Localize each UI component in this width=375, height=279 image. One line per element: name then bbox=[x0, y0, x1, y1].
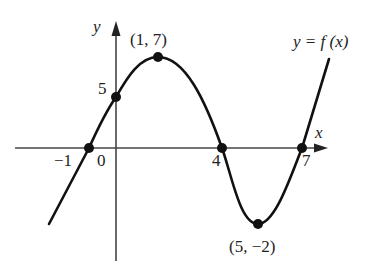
point-5-neg2 bbox=[253, 219, 263, 229]
tick-label-neg1: −1 bbox=[54, 152, 72, 169]
min-point-label: (5, −2) bbox=[229, 238, 275, 255]
point-1-7 bbox=[153, 52, 163, 62]
tick-label-7: 7 bbox=[302, 152, 311, 169]
x-axis-label: x bbox=[315, 124, 323, 141]
tick-label-y5: 5 bbox=[98, 80, 107, 97]
tick-label-4: 4 bbox=[212, 152, 221, 169]
curve-label: y = f (x) bbox=[293, 33, 348, 50]
y-axis-arrow-icon bbox=[112, 21, 121, 36]
max-point-label: (1, 7) bbox=[130, 31, 167, 48]
point-0-5 bbox=[111, 92, 121, 102]
point-neg1-0 bbox=[84, 143, 94, 153]
tick-label-0: 0 bbox=[97, 152, 106, 169]
y-axis-label: y bbox=[93, 18, 101, 35]
function-curve bbox=[49, 57, 329, 224]
x-axis-arrow-icon bbox=[314, 144, 328, 153]
